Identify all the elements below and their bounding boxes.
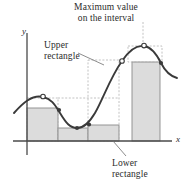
lower-rectangles-group: [27, 62, 160, 141]
lower-rectangle-label-line1: Lower: [112, 158, 148, 169]
lower-rectangle-4: [132, 62, 160, 141]
lower-rectangle-3: [88, 125, 119, 141]
lower-rectangle-1: [27, 108, 58, 141]
y-axis-label: y: [22, 26, 26, 36]
leader-line-lower-rectangle: [113, 141, 126, 156]
point-local-min: [75, 126, 79, 130]
maximum-value-label: Maximum value on the interval: [64, 2, 148, 24]
maximum-value-label-line2: on the interval: [64, 13, 148, 24]
plot-canvas: [0, 0, 191, 187]
point-local-max-open: [41, 94, 46, 99]
riemann-sum-figure: Maximum value on the interval Upper rect…: [0, 0, 191, 187]
lower-rectangle-2: [58, 128, 88, 141]
maximum-value-label-line1: Maximum value: [64, 2, 148, 13]
point-global-max-open: [142, 43, 147, 48]
upper-rectangle-label: Upper rectangle: [44, 40, 80, 62]
leader-line-upper-rectangle: [78, 53, 104, 65]
point-interval-3-left: [87, 122, 91, 126]
lower-rectangle-label: Lower rectangle: [112, 158, 148, 180]
lower-rectangle-label-line2: rectangle: [112, 169, 148, 180]
point-interval-4-right: [159, 61, 163, 65]
upper-rectangle-label-line2: rectangle: [44, 51, 80, 62]
upper-rectangle-label-line1: Upper: [44, 40, 80, 51]
point-interval-4-left-open: [120, 59, 125, 64]
point-interval-1-right: [57, 108, 61, 112]
x-axis-label: x: [176, 134, 180, 144]
